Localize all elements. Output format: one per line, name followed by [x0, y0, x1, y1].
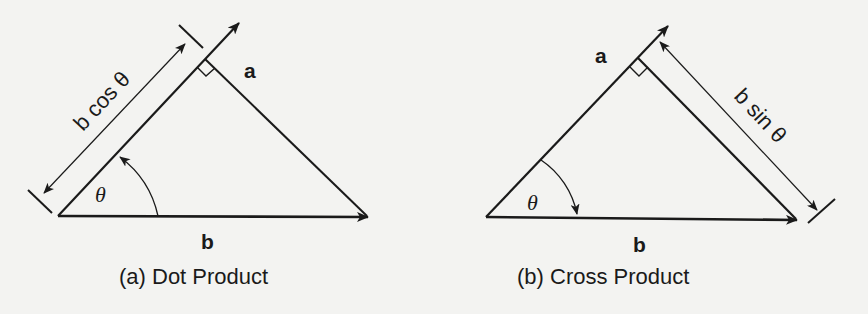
vector-a-arrow	[486, 26, 668, 217]
angle-arc-arrow	[120, 157, 158, 216]
dimension-line-bcos	[44, 44, 185, 193]
caption-dot-product: (a) Dot Product	[119, 264, 268, 289]
right-angle-marker	[630, 67, 648, 76]
dimension-label-bsin: b sin θ	[729, 83, 791, 147]
dimension-tick-end	[808, 199, 835, 223]
right-angle-marker	[197, 67, 215, 76]
perpendicular-line	[205, 59, 367, 216]
vector-a-label: a	[244, 59, 256, 82]
angle-theta-label: θ	[527, 190, 538, 215]
vector-products-figure: θ a b b cos θ (a) Dot Product θ a b b si…	[0, 0, 868, 314]
dimension-tick-end	[179, 25, 203, 48]
panel-dot-product: θ a b b cos θ (a) Dot Product	[28, 23, 368, 289]
vector-b-label: b	[633, 233, 646, 256]
vector-b-arrow	[58, 216, 368, 217]
vector-b-label: b	[201, 230, 214, 253]
angle-theta-label: θ	[95, 182, 106, 207]
angle-arc-arrow	[541, 160, 577, 214]
vector-a-label: a	[595, 44, 607, 67]
dimension-label-bcos: b cos θ	[68, 66, 135, 135]
caption-cross-product: (b) Cross Product	[517, 264, 689, 289]
panel-cross-product: θ a b b sin θ (b) Cross Product	[486, 26, 835, 289]
vector-b-arrow	[486, 217, 797, 220]
dimension-tick-start	[28, 190, 52, 213]
dimension-line-bsin	[660, 42, 817, 210]
